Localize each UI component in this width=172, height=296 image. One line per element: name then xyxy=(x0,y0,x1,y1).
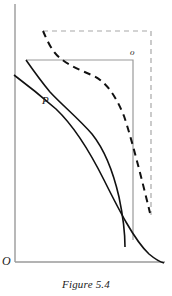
solid-guide-rectangle xyxy=(26,60,133,240)
figure-caption: Figure 5.4 xyxy=(0,278,172,290)
guide-corner-label: o xyxy=(130,48,135,57)
dashed-curve xyxy=(43,31,150,213)
solid-curve-inner xyxy=(26,60,125,247)
point-p-label: P xyxy=(42,95,49,106)
figure-drawing xyxy=(0,0,172,296)
axis-origin-label: O xyxy=(2,255,11,267)
dashed-guide-rectangle xyxy=(43,31,151,215)
figure-container: O o P Figure 5.4 xyxy=(0,0,172,296)
solid-curve-outer xyxy=(14,75,164,263)
